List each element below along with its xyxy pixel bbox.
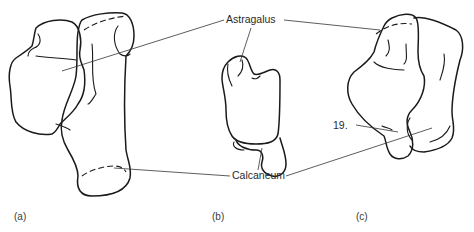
panel-c-astragalus-outline xyxy=(348,14,425,159)
panel-a-drawing xyxy=(9,13,134,196)
anatomical-diagram: Astragalus Calcaneum 19. (a) (b) (c) xyxy=(0,0,474,232)
panel-a-astragalus-outline xyxy=(9,20,85,135)
astragalus-label: Astragalus xyxy=(226,14,276,25)
bone-drawings xyxy=(0,0,474,232)
panel-a-label: (a) xyxy=(14,212,26,222)
panel-b-astragalus-outline xyxy=(222,56,280,144)
panel-b-drawing xyxy=(222,56,286,176)
panel-b-label: (b) xyxy=(212,212,224,222)
marker-19-label: 19. xyxy=(333,120,348,131)
panel-c-label: (c) xyxy=(356,212,368,222)
calcaneum-label: Calcaneum xyxy=(232,170,285,181)
